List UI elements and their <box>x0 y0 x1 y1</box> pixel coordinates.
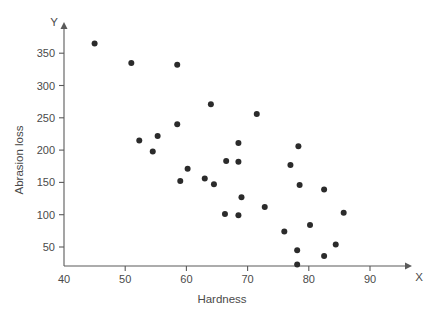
x-tick-label: 80 <box>303 273 315 285</box>
y-axis-letter: Y <box>50 16 58 28</box>
data-point <box>211 181 217 187</box>
data-point <box>287 162 293 168</box>
data-point <box>202 176 208 182</box>
data-point <box>235 212 241 218</box>
data-point <box>177 178 183 184</box>
data-point <box>185 166 191 172</box>
data-point <box>155 133 161 139</box>
data-point <box>294 247 300 253</box>
y-tick-label: 200 <box>37 144 55 156</box>
data-point <box>92 41 98 47</box>
data-point <box>136 137 142 143</box>
data-point <box>235 140 241 146</box>
y-tick-label: 350 <box>37 47 55 59</box>
data-point <box>223 158 229 164</box>
data-point <box>150 148 156 154</box>
x-axis-letter: X <box>415 271 423 283</box>
x-tick-label: 50 <box>119 273 131 285</box>
data-point <box>294 261 300 267</box>
data-point <box>262 204 268 210</box>
scatter-plot-figure: 50100150200250300350405060708090YXHardne… <box>0 0 436 319</box>
plot-canvas: 50100150200250300350405060708090YXHardne… <box>0 0 436 319</box>
data-point <box>222 211 228 217</box>
data-point <box>208 101 214 107</box>
y-tick-label: 150 <box>37 176 55 188</box>
data-point <box>295 143 301 149</box>
data-point <box>321 253 327 259</box>
x-tick-label: 60 <box>180 273 192 285</box>
data-point <box>307 222 313 228</box>
data-points-group <box>92 41 347 268</box>
data-point <box>281 229 287 235</box>
x-tick-label: 70 <box>241 273 253 285</box>
data-point <box>128 60 134 66</box>
y-tick-label: 250 <box>37 112 55 124</box>
x-tick-label: 40 <box>58 273 70 285</box>
data-point <box>235 159 241 165</box>
data-point <box>174 62 180 68</box>
data-point <box>238 194 244 200</box>
y-tick-label: 50 <box>43 241 55 253</box>
y-tick-label: 300 <box>37 80 55 92</box>
x-axis-arrow-icon <box>405 263 412 270</box>
x-tick-label: 90 <box>364 273 376 285</box>
data-point <box>333 241 339 247</box>
data-point <box>297 182 303 188</box>
y-axis-arrow-icon <box>61 22 68 29</box>
data-point <box>174 121 180 127</box>
y-axis-title: Abrasion loss <box>13 125 25 194</box>
y-tick-label: 100 <box>37 209 55 221</box>
x-axis-title: Hardness <box>197 293 246 305</box>
data-point <box>254 111 260 117</box>
data-point <box>341 210 347 216</box>
data-point <box>321 187 327 193</box>
